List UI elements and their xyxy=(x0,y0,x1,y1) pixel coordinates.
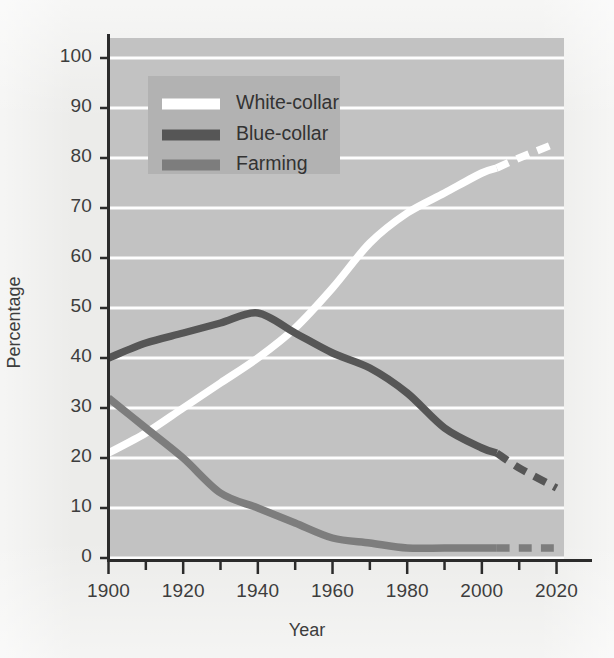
chart-page: 0102030405060708090100 19001920194019601… xyxy=(0,0,614,658)
legend-swatch xyxy=(162,160,220,171)
x-tick-label: 2020 xyxy=(507,580,607,602)
y-axis-title: Percentage xyxy=(4,243,25,403)
y-tick-label: 80 xyxy=(20,145,92,167)
y-tick-label: 100 xyxy=(20,45,92,67)
y-tick-label: 10 xyxy=(20,495,92,517)
legend-label: Blue-collar xyxy=(236,122,328,145)
y-tick-label: 30 xyxy=(20,395,92,417)
y-tick-label: 70 xyxy=(20,195,92,217)
legend-label: Farming xyxy=(236,152,308,175)
y-tick-marks xyxy=(100,58,108,558)
legend-swatches xyxy=(162,99,220,171)
y-tick-label: 60 xyxy=(20,245,92,267)
x-axis-title: Year xyxy=(0,620,614,641)
legend-label: White-collar xyxy=(236,91,339,114)
y-tick-label: 20 xyxy=(20,445,92,467)
y-tick-label: 40 xyxy=(20,345,92,367)
x-tick-marks xyxy=(109,560,557,574)
y-tick-label: 0 xyxy=(20,545,92,567)
legend-swatch xyxy=(162,99,220,110)
legend-swatch xyxy=(162,130,220,141)
y-tick-label: 50 xyxy=(20,295,92,317)
y-tick-label: 90 xyxy=(20,95,92,117)
